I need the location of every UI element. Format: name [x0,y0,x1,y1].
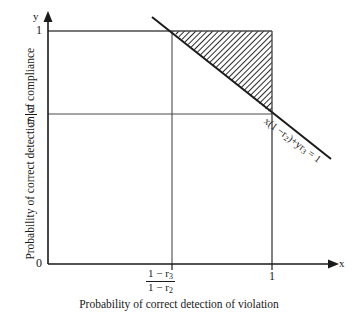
x-tick-label-one: 1 [269,270,275,282]
origin-label: 0 [36,257,42,269]
x-tick-fraction-denominator: 1 − r2 [146,282,175,295]
x-tick-fraction-numerator: 1 − r3 [146,268,175,282]
plot-canvas [0,0,358,318]
x-tick-label-ratio: 1 − r3 1 − r2 [146,268,175,295]
y-tick-label-one: 1 [36,24,42,36]
x-axis-caption: Probability of correct detection of viol… [0,299,358,311]
x-tick-fraction: 1 − r3 1 − r2 [146,268,175,295]
y-axis-arrow-icon [44,11,53,22]
x-axis-symbol: x [339,258,345,269]
figure-container: y x 1 0 1 r2 r3 1 − r3 1 − r2 x(1 −r2)+y… [0,0,358,318]
y-axis-caption: Probability of correct detection of comp… [25,19,37,289]
x-axis-arrow-icon [328,260,339,269]
